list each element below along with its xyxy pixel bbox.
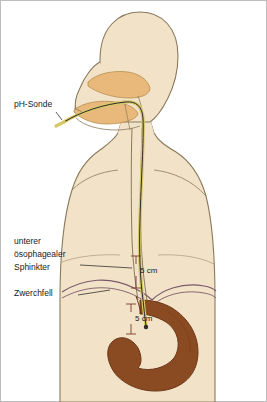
probe-tip: [144, 325, 148, 329]
label-zwerchfell: Zwerchfell: [14, 288, 53, 298]
label-oesophagealer: ösophagealer: [14, 249, 66, 259]
label-unterer: unterer: [14, 236, 41, 246]
label-sphinkter: Sphinkter: [14, 262, 50, 272]
label-ph-sonde: pH-Sonde: [14, 99, 52, 109]
measurement-upper-label: 5 cm: [140, 266, 157, 275]
anatomy-diagram: [0, 0, 267, 402]
figure-container: pH-Sonde unterer ösophagealer Sphinkter …: [0, 0, 267, 402]
measurement-lower-label: 5 cm: [135, 314, 152, 323]
